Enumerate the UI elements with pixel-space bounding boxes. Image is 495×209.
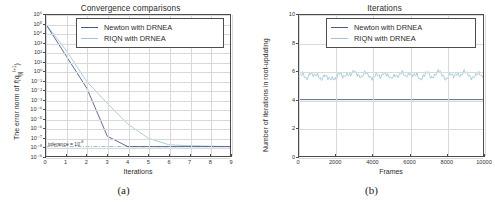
x-tick-label: 6000 [403, 159, 415, 165]
x-tick-mark [128, 154, 129, 157]
grid-line-vertical [46, 15, 47, 156]
x-axis-label-b: Frames [298, 168, 484, 175]
grid-line-horizontal [46, 148, 230, 149]
y-tick-mark [43, 157, 46, 158]
y-tick-mark [296, 43, 299, 44]
grid-line-horizontal [46, 101, 230, 102]
y-tick-label: 10⁴ [18, 30, 42, 36]
y-axis-label-a: The error norm of f(q[i]l+1) [12, 63, 23, 140]
y-tick-label: 10⁻⁸ [18, 144, 42, 150]
y-tick-mark [43, 128, 46, 129]
y-tick-label: 10⁵ [18, 21, 42, 27]
y-tick-mark [43, 33, 46, 34]
x-tick-mark [298, 154, 299, 157]
x-tick-label: 8 [209, 159, 212, 165]
y-tick-label: 10⁶ [18, 11, 42, 17]
x-tick-mark [190, 154, 191, 157]
subfigure-caption-b: (b) [248, 184, 495, 196]
y-tick-mark [43, 100, 46, 101]
y-tick-mark [296, 128, 299, 129]
legend-label-newton: Newton with DRNEA [104, 23, 172, 32]
legend-swatch-riqn [81, 38, 98, 39]
grid-line-vertical [67, 15, 68, 156]
x-tick-mark [148, 154, 149, 157]
legend-label-riqn: RIQN with DRNEA [104, 34, 166, 43]
x-tick-label: 8000 [441, 159, 453, 165]
y-tick-label: 4 [282, 97, 295, 103]
y-tick-label: 8 [282, 40, 295, 46]
y-tick-mark [43, 81, 46, 82]
legend-swatch-newton [331, 27, 348, 28]
x-tick-mark [410, 154, 411, 157]
x-tick-label: 0 [43, 159, 46, 165]
legend-b: Newton with DRNEA RIQN with DRNEA [326, 18, 476, 48]
legend-item-newton: Newton with DRNEA [331, 22, 470, 33]
figure-container: Convergence comparisons 10⁶10⁵10⁴10³10²1… [0, 0, 495, 209]
grid-line-horizontal [46, 82, 230, 83]
grid-line-vertical [485, 15, 486, 156]
grid-line-horizontal [46, 110, 230, 111]
y-tick-mark [43, 138, 46, 139]
y-tick-mark [43, 52, 46, 53]
legend-swatch-riqn [331, 38, 348, 39]
panel-b: Iterations 0246810 020004000600080001000… [248, 0, 495, 209]
x-tick-mark [231, 154, 232, 157]
grid-line-horizontal [299, 15, 483, 16]
y-tick-label: 6 [282, 68, 295, 74]
y-tick-mark [43, 62, 46, 63]
grid-line-horizontal [46, 72, 230, 73]
x-tick-mark [45, 154, 46, 157]
x-axis-label-a: Iterations [45, 168, 231, 175]
y-tick-label: 10 [282, 11, 295, 17]
x-tick-label: 5 [147, 159, 150, 165]
x-tick-label: 2000 [329, 159, 341, 165]
legend-a: Newton with DRNEA RIQN with DRNEA [76, 18, 224, 48]
x-tick-label: 4 [126, 159, 129, 165]
x-tick-label: 0 [296, 159, 299, 165]
y-tick-mark [43, 71, 46, 72]
legend-item-riqn: RIQN with DRNEA [331, 33, 470, 44]
tolerance-text: tolerance = 10 [48, 140, 80, 146]
grid-line-horizontal [299, 101, 483, 102]
y-tick-mark [296, 71, 299, 72]
y-tick-label: 2 [282, 125, 295, 131]
tolerance-annotation: tolerance = 10-8 [48, 140, 83, 147]
legend-item-newton: Newton with DRNEA [81, 22, 218, 33]
x-tick-label: 9 [229, 159, 232, 165]
x-tick-mark [169, 154, 170, 157]
x-tick-label: 6 [167, 159, 170, 165]
grid-line-horizontal [46, 53, 230, 54]
panel-a: Convergence comparisons 10⁶10⁵10⁴10³10²1… [0, 0, 247, 209]
y-tick-mark [43, 24, 46, 25]
legend-swatch-newton [81, 27, 98, 28]
y-tick-mark [296, 14, 299, 15]
x-tick-label: 7 [188, 159, 191, 165]
legend-label-newton: Newton with DRNEA [354, 23, 422, 32]
y-tick-mark [296, 157, 299, 158]
grid-line-horizontal [299, 158, 483, 159]
x-tick-label: 3 [105, 159, 108, 165]
x-tick-mark [447, 154, 448, 157]
x-tick-mark [66, 154, 67, 157]
grid-line-horizontal [46, 63, 230, 64]
x-tick-mark [484, 154, 485, 157]
y-tick-mark [43, 119, 46, 120]
y-tick-label: 10² [18, 49, 42, 55]
x-tick-label: 4000 [366, 159, 378, 165]
subfigure-caption-a: (a) [0, 184, 247, 196]
y-tick-label: 0 [282, 154, 295, 160]
x-tick-mark [372, 154, 373, 157]
y-tick-label: 10³ [18, 40, 42, 46]
y-tick-label: 10⁻⁹ [18, 154, 42, 160]
x-tick-mark [107, 154, 108, 157]
grid-line-vertical [299, 15, 300, 156]
y-tick-mark [43, 14, 46, 15]
grid-line-horizontal [46, 158, 230, 159]
chart-title-a: Convergence comparisons [28, 4, 233, 13]
chart-title-b: Iterations [282, 4, 487, 13]
x-tick-label: 1 [64, 159, 67, 165]
grid-line-horizontal [46, 129, 230, 130]
y-tick-mark [43, 90, 46, 91]
grid-line-vertical [232, 15, 233, 156]
x-tick-mark [210, 154, 211, 157]
